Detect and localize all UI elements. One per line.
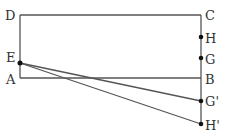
label-e: E — [6, 50, 16, 65]
segment-e-gprime — [20, 63, 201, 101]
point-e — [18, 61, 23, 66]
label-h: H — [205, 31, 216, 46]
geometry-diagram: D E A C H G B G' H' — [0, 0, 226, 136]
label-d: D — [5, 8, 15, 23]
point-h — [199, 35, 204, 40]
label-b: B — [205, 72, 215, 87]
label-a: A — [5, 72, 16, 87]
segment-e-hprime — [20, 63, 201, 124]
point-h-prime — [199, 122, 204, 127]
label-c: C — [205, 8, 215, 23]
label-g: G — [205, 52, 215, 67]
point-g-prime — [199, 99, 204, 104]
point-g — [199, 56, 204, 61]
label-g-prime: G' — [205, 94, 219, 109]
label-h-prime: H' — [205, 118, 220, 133]
